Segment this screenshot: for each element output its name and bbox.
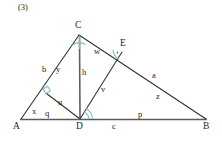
vertex-label-B: B xyxy=(203,122,209,132)
geometry-canvas xyxy=(0,0,222,144)
side-label-p: p xyxy=(138,110,142,119)
angle-dot-at-E xyxy=(117,52,119,54)
side-label-c: c xyxy=(112,122,116,131)
segment-DF-perpendicular xyxy=(47,94,81,120)
side-label-v: v xyxy=(101,85,105,94)
side-label-h: h xyxy=(82,68,86,77)
vertex-label-D: D xyxy=(76,122,83,132)
vertex-label-A: A xyxy=(13,122,20,132)
angle-mark-at-F-right-angle xyxy=(43,86,50,93)
side-label-w: w xyxy=(94,47,100,56)
side-label-b: b xyxy=(42,65,46,74)
vertex-label-E: E xyxy=(120,39,126,49)
side-label-y: y xyxy=(56,65,60,74)
angle-mark-at-D-inner xyxy=(84,112,89,119)
segment-AC xyxy=(21,35,79,119)
side-label-z: z xyxy=(156,92,160,101)
side-label-a: a xyxy=(152,71,156,80)
side-label-q: q xyxy=(45,109,49,118)
side-label-x: x xyxy=(32,107,36,116)
vertex-label-C: C xyxy=(75,21,81,31)
side-label-u: u xyxy=(58,98,62,107)
